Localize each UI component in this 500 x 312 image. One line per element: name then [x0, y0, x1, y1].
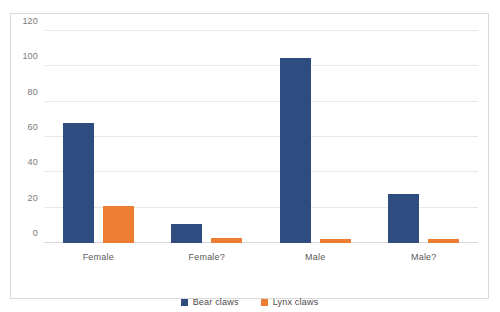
bar-group: Male?	[370, 31, 479, 243]
legend-item[interactable]: Bear claws	[181, 297, 239, 307]
y-axis-tick-label: 120	[22, 16, 38, 26]
bar-group-bars	[153, 31, 262, 243]
x-axis-tick-label: Female	[44, 252, 153, 262]
bar	[63, 123, 94, 243]
plot-area: 020406080100120 FemaleFemale?MaleMale?	[44, 31, 478, 243]
y-axis-tick-label: 80	[28, 87, 38, 97]
bar	[320, 239, 351, 243]
bar-groups: FemaleFemale?MaleMale?	[44, 31, 478, 243]
y-axis-tick-label: 60	[28, 122, 38, 132]
chart-legend: Bear clawsLynx claws	[11, 297, 488, 307]
bar	[171, 224, 202, 243]
bar-group: Female	[44, 31, 153, 243]
bar	[211, 238, 242, 243]
y-axis-tick-label: 100	[22, 51, 38, 61]
bar	[280, 58, 311, 244]
legend-swatch-icon	[181, 299, 188, 306]
legend-swatch-icon	[261, 299, 268, 306]
bar-group: Male	[261, 31, 370, 243]
y-axis-tick-label: 0	[33, 228, 38, 238]
x-axis-tick-label: Male	[261, 252, 370, 262]
bar-group-bars	[370, 31, 479, 243]
chart-container: 020406080100120 FemaleFemale?MaleMale? B…	[10, 13, 489, 299]
bar-group-bars	[44, 31, 153, 243]
y-axis-tick-label: 40	[28, 157, 38, 167]
x-axis-tick-label: Female?	[153, 252, 262, 262]
y-axis-tick-label: 20	[28, 193, 38, 203]
bar	[103, 206, 134, 243]
legend-label: Lynx claws	[273, 297, 319, 307]
bar-group-bars	[261, 31, 370, 243]
bar-group: Female?	[153, 31, 262, 243]
legend-item[interactable]: Lynx claws	[261, 297, 319, 307]
legend-label: Bear claws	[193, 297, 239, 307]
bar	[388, 194, 419, 243]
x-axis-tick-label: Male?	[370, 252, 479, 262]
bar	[428, 239, 459, 243]
